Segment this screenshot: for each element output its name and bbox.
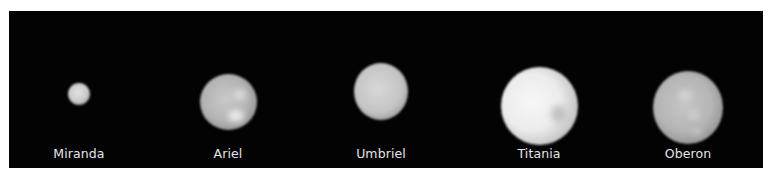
dark-region bbox=[551, 105, 567, 123]
moon-titania bbox=[501, 67, 578, 145]
label-miranda: Miranda bbox=[19, 146, 139, 161]
moons-image-panel: Miranda Ariel Umbriel Titania Oberon bbox=[9, 11, 763, 168]
moon-miranda bbox=[68, 83, 90, 105]
moon-umbriel bbox=[354, 63, 408, 120]
label-ariel: Ariel bbox=[168, 146, 288, 161]
label-titania: Titania bbox=[479, 146, 599, 161]
bright-region bbox=[234, 90, 246, 100]
moon-ariel bbox=[200, 74, 257, 130]
label-oberon: Oberon bbox=[628, 146, 748, 161]
bright-region bbox=[679, 91, 691, 99]
bright-region bbox=[689, 111, 699, 119]
bright-region bbox=[693, 129, 701, 135]
moon-oberon bbox=[653, 71, 723, 144]
label-umbriel: Umbriel bbox=[321, 146, 441, 161]
bright-region bbox=[228, 110, 244, 122]
